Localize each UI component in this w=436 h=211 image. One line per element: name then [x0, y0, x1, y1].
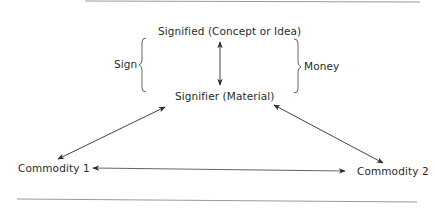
commodity2-label: Commodity 2	[357, 165, 429, 177]
commodity1-label: Commodity 1	[18, 162, 90, 174]
money-bracket	[294, 39, 301, 93]
money-label: Money	[304, 60, 339, 72]
signified-label: Signified (Concept or Idea)	[158, 25, 301, 37]
arrow-signifier-commodity1	[58, 107, 165, 159]
sign-label: Sign	[114, 58, 137, 70]
signifier-label: Signifier (Material)	[175, 90, 274, 102]
arrow-commodity1-commodity2	[93, 168, 345, 171]
arrow-signifier-commodity2	[274, 105, 383, 163]
sign-bracket	[139, 38, 146, 92]
bottom-rule	[17, 199, 417, 202]
top-rule	[85, 1, 420, 2]
